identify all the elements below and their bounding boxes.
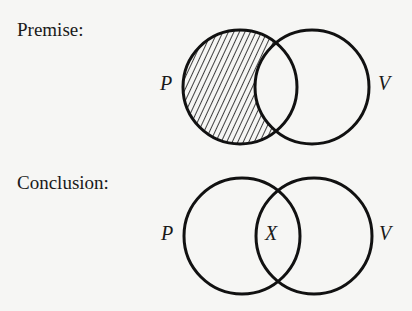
premise-label-v: V (378, 72, 393, 94)
conclusion-label-v: V (379, 222, 394, 244)
conclusion-intersection-x: X (264, 222, 278, 244)
premise-diagram: P V (159, 25, 393, 150)
venn-diagrams: P V P X V (0, 0, 412, 311)
premise-shaded-region (180, 25, 305, 150)
premise-label-p: P (159, 72, 172, 94)
conclusion-diagram: P X V (160, 178, 394, 294)
conclusion-circle-p (184, 178, 300, 294)
conclusion-label-p: P (160, 222, 173, 244)
